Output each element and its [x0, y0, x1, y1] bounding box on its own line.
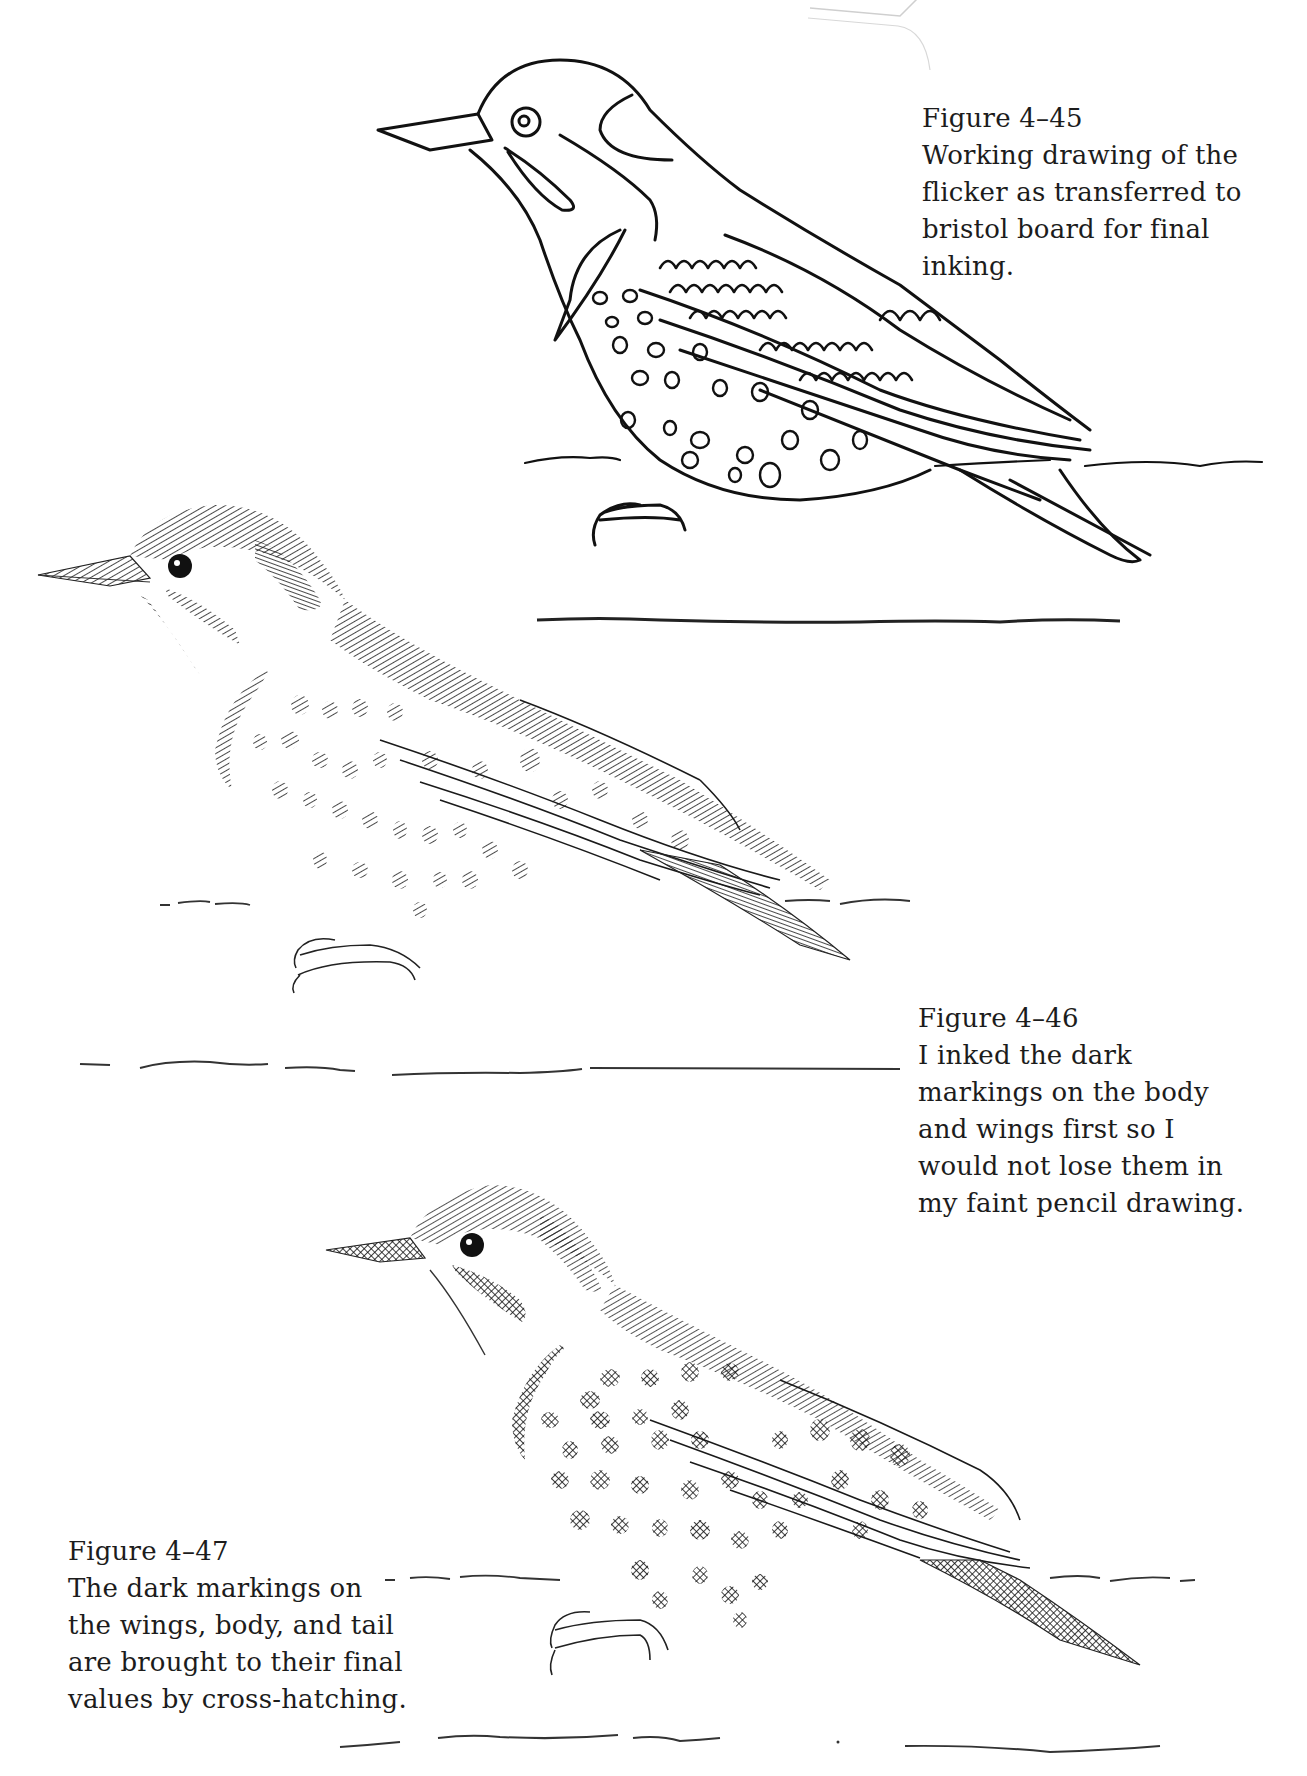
figure-4-47-title: Figure 4–47: [68, 1533, 407, 1570]
caption-line: are brought to their final: [68, 1644, 407, 1681]
figure-4-47-illustration: [0, 0, 1307, 1776]
figure-4-47-caption: Figure 4–47 The dark markings on the win…: [68, 1533, 407, 1718]
caption-line: The dark markings on: [68, 1570, 407, 1607]
caption-line: values by cross-hatching.: [68, 1681, 407, 1718]
caption-line: the wings, body, and tail: [68, 1607, 407, 1644]
